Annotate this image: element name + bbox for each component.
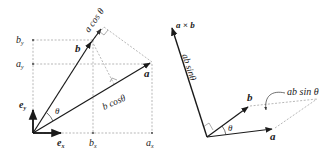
tick-a-y	[32, 63, 34, 65]
label-ab-sin-theta-vertical: ab sinθ	[180, 53, 198, 83]
label-e-x: ex	[57, 137, 64, 149]
right-angle-mark-b	[110, 78, 117, 82]
label-ab-sin-theta-area: ab sin θ	[287, 86, 319, 97]
label-a-cross-b: a × b	[176, 20, 195, 30]
label-vector-a-right: a	[270, 130, 276, 142]
tick-a-x	[151, 132, 153, 134]
vector-b	[33, 42, 91, 133]
label-b-cos-theta: b cosθ	[101, 93, 128, 112]
cross-product-diagram: a × b ab sinθ b a θ ab sin θ	[172, 20, 319, 142]
theta-arc-right	[222, 126, 226, 135]
tick-b-y	[32, 39, 34, 41]
right-angle-mark-a	[100, 30, 108, 35]
label-a-cos-theta: a cos θ	[82, 6, 106, 34]
label-e-y: ey	[19, 99, 26, 111]
tick-b-x	[92, 132, 94, 134]
theta-arc	[47, 113, 53, 121]
label-theta: θ	[55, 106, 60, 116]
vector-a-cross-b	[172, 28, 207, 137]
dot-product-diagram: by ay ey ex bx ax b a θ a cos θ b cosθ	[16, 6, 154, 149]
label-a-x: ax	[146, 137, 154, 149]
a-perp-to-b	[104, 27, 152, 62]
parallelogram-right-edge	[275, 99, 317, 128]
label-b-y: by	[16, 34, 24, 46]
label-b-x: bx	[89, 137, 97, 149]
label-vector-b: b	[75, 42, 81, 54]
area-pointer-arrow	[266, 92, 285, 110]
label-theta-right: θ	[228, 123, 233, 133]
b-perp-to-a	[92, 41, 114, 84]
label-a-y: ay	[16, 58, 24, 70]
parallelogram-top-edge	[250, 99, 317, 106]
label-vector-b-right: b	[247, 91, 253, 103]
label-vector-a: a	[144, 67, 150, 79]
vector-diagram: by ay ey ex bx ax b a θ a cos θ b cosθ a…	[0, 0, 336, 155]
vector-a	[33, 63, 150, 133]
